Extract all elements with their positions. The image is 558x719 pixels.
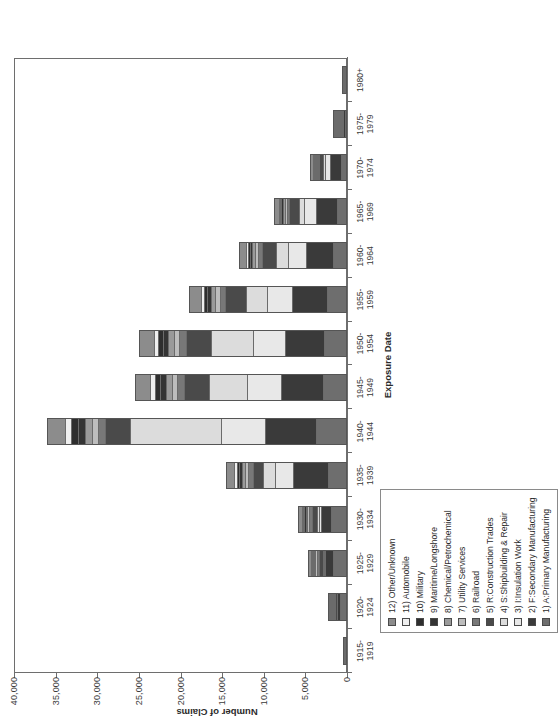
legend-item[interactable]: 9) Maritime/Longshore — [428, 497, 440, 626]
plot-area — [14, 58, 347, 673]
legend-item[interactable]: 10) Military — [414, 497, 426, 626]
legend-item[interactable]: 3) I:Insulation Work — [512, 497, 524, 626]
legend-swatch-icon — [430, 618, 438, 626]
bar-segment — [210, 375, 248, 400]
legend-item[interactable]: 11) Automobile — [400, 497, 412, 626]
legend-item-label: 3) I:Insulation Work — [514, 539, 523, 613]
bar-segment — [332, 507, 346, 532]
x-axis-category-label: 1935-1939 — [355, 464, 375, 486]
bar-segment — [185, 375, 210, 400]
bar-segment — [79, 419, 87, 444]
bar-segment — [334, 551, 346, 576]
bar-segment — [72, 419, 79, 444]
bar-1930-1934[interactable] — [298, 506, 347, 533]
bar-1950-1954[interactable] — [139, 330, 347, 357]
bar-segment — [212, 331, 253, 356]
legend-item-label: 10) Military — [416, 571, 425, 613]
x-axis-tick — [347, 452, 352, 453]
legend-item[interactable]: 8) Chemical/Petrochemical — [442, 497, 454, 626]
x-axis-category-label: 1980+ — [355, 68, 365, 92]
bar-segment — [341, 595, 346, 620]
legend-swatch-icon — [444, 618, 452, 626]
x-axis-tick — [347, 233, 352, 234]
bar-1955-1959[interactable] — [189, 286, 347, 313]
y-axis-tick-label: 5,000 — [300, 677, 310, 700]
legend-swatch-icon — [500, 618, 508, 626]
x-axis-tick — [347, 365, 352, 366]
bar-segment — [325, 331, 346, 356]
legend-item[interactable]: 7) Utility Services — [456, 497, 468, 626]
bar-segment — [324, 375, 346, 400]
legend-swatch-icon — [542, 618, 550, 626]
legend-item-label: 9) Maritime/Longshore — [430, 527, 439, 613]
legend-box: 12) Other/Unknown11) Automobile10) Milit… — [380, 489, 558, 633]
bar-1940-1944[interactable] — [47, 418, 347, 445]
bar-1935-1939[interactable] — [226, 462, 347, 489]
legend-item-label: 2) F:Secondary Manufacturing — [528, 497, 537, 613]
y-axis-tick-label: 25,000 — [134, 677, 144, 705]
bar-segment — [328, 287, 346, 312]
legend-item[interactable]: 1) A:Primary Manufacturing — [540, 497, 552, 626]
legend-swatch-icon — [402, 618, 410, 626]
bar-segment — [326, 551, 335, 576]
bar-1980+[interactable] — [342, 66, 347, 93]
bar-segment — [178, 375, 185, 400]
bar-segment — [190, 287, 202, 312]
bar-1920-1924[interactable] — [328, 594, 347, 621]
bar-segment — [329, 463, 346, 488]
bar-segment — [131, 419, 222, 444]
bar-segment — [342, 155, 346, 180]
x-axis-category-label: 1940-1944 — [355, 420, 375, 442]
bar-segment — [338, 199, 346, 224]
bar-segment — [187, 331, 213, 356]
bar-segment — [86, 419, 93, 444]
bar-segment — [305, 199, 317, 224]
bar-segment — [286, 331, 325, 356]
bar-1915-1919[interactable] — [343, 637, 347, 664]
bar-segment — [263, 243, 278, 268]
bar-segment — [106, 419, 131, 444]
bar-segment — [331, 155, 342, 180]
x-axis-tick — [347, 145, 352, 146]
x-axis-category-label: 1930-1934 — [355, 508, 375, 530]
legend-swatch-icon — [486, 618, 494, 626]
bar-segment — [140, 331, 155, 356]
x-axis-category-label: 1975-1979 — [355, 113, 375, 135]
bar-1925-1929[interactable] — [308, 550, 347, 577]
bar-1965-1969[interactable] — [274, 198, 347, 225]
legend-item[interactable]: 12) Other/Unknown — [386, 497, 398, 626]
legend-item-label: 6) Railroad — [472, 571, 481, 613]
x-axis-tick — [347, 101, 352, 102]
legend-item[interactable]: 4) S:Shipbuilding & Repair — [498, 497, 510, 626]
legend-item-label: 7) Utility Services — [458, 547, 467, 613]
legend-item[interactable]: 6) Railroad — [470, 497, 482, 626]
legend-item[interactable]: 5) R:Construction Trades — [484, 497, 496, 626]
bar-segment — [268, 287, 293, 312]
legend-item-label: 4) S:Shipbuilding & Repair — [500, 512, 509, 613]
bar-segment — [290, 199, 300, 224]
bar-1970-1974[interactable] — [310, 154, 347, 181]
y-axis-tick-label: 10,000 — [259, 677, 269, 705]
legend-swatch-icon — [472, 618, 480, 626]
x-axis-tick — [347, 321, 352, 322]
y-axis-tick-label: 35,000 — [51, 677, 61, 705]
legend-item[interactable]: 2) F:Secondary Manufacturing — [526, 497, 538, 626]
y-axis-tick-label: 15,000 — [217, 677, 227, 705]
bar-1945-1949[interactable] — [135, 374, 347, 401]
x-axis-category-label: 1945-1949 — [355, 376, 375, 398]
legend-item-label: 11) Automobile — [402, 556, 411, 613]
x-axis-category-label: 1950-1954 — [355, 333, 375, 355]
bar-1975-1979[interactable] — [333, 110, 347, 137]
bar-segment — [317, 199, 338, 224]
legend-item-label: 1) A:Primary Manufacturing — [542, 509, 551, 613]
bar-segment — [99, 419, 106, 444]
x-axis-category-label: 1960-1964 — [355, 245, 375, 267]
y-axis-tick-label: 40,000 — [9, 677, 19, 705]
y-axis-tick-label: 30,000 — [92, 677, 102, 705]
bar-1960-1964[interactable] — [239, 242, 347, 269]
legend-item-label: 12) Other/Unknown — [388, 538, 397, 613]
bar-segment — [254, 463, 265, 488]
y-axis-tick-label: 20,000 — [176, 677, 186, 705]
